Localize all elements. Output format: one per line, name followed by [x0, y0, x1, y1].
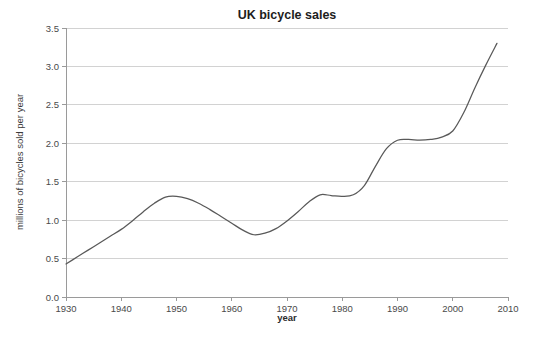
x-axis-title: year: [277, 312, 297, 323]
x-tick-label: 1980: [332, 303, 353, 314]
y-tick-label: 3.5: [46, 23, 59, 34]
y-axis-ticks: 0.00.51.01.52.02.53.03.5: [46, 23, 66, 303]
data-line-uk-bicycle-sales: [66, 43, 497, 264]
y-tick-label: 0.0: [46, 292, 59, 303]
chart-figure: UK bicycle sales 0.00.51.01.52.02.53.03.…: [0, 0, 547, 340]
y-tick-label: 0.5: [46, 253, 59, 264]
y-axis-title: millions of bicycles sold per year: [14, 94, 25, 230]
x-tick-label: 1990: [387, 303, 408, 314]
x-tick-label: 1960: [221, 303, 242, 314]
chart-title: UK bicycle sales: [238, 8, 337, 22]
y-tick-label: 3.0: [46, 61, 59, 72]
y-tick-label: 1.5: [46, 176, 59, 187]
x-tick-label: 1930: [55, 303, 76, 314]
y-tick-label: 2.0: [46, 138, 59, 149]
gridlines: [66, 28, 508, 259]
x-tick-label: 1940: [111, 303, 132, 314]
x-tick-label: 1950: [166, 303, 187, 314]
x-tick-label: 2000: [442, 303, 463, 314]
y-tick-label: 1.0: [46, 215, 59, 226]
axis-lines: [66, 28, 508, 297]
line-chart: UK bicycle sales 0.00.51.01.52.02.53.03.…: [0, 0, 547, 340]
y-tick-label: 2.5: [46, 99, 59, 110]
x-tick-label: 2010: [497, 303, 518, 314]
